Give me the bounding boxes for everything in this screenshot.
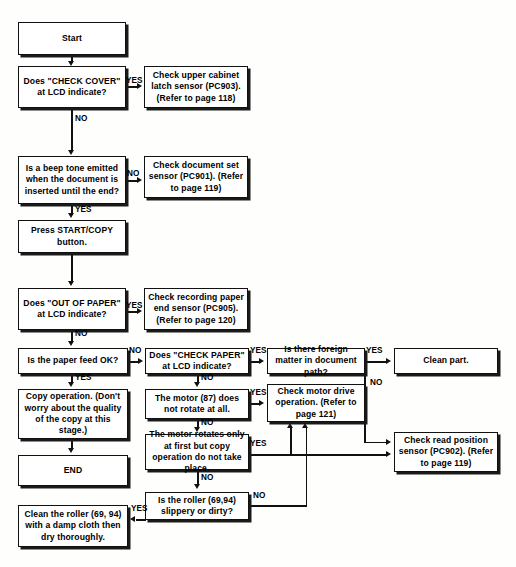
node-beep-tone-label: Is a beep tone emitted when the document… (22, 163, 122, 197)
arrow-branch-to-motor-drive (287, 423, 293, 428)
edge-label-foreign-matter-no: NO (370, 378, 382, 387)
arrow-motor-first-only-yes (386, 451, 391, 457)
node-clean-part[interactable]: Clean part. (394, 348, 498, 374)
arrow-check-paper-yes (259, 358, 264, 364)
arrow-copy-operation-to-end (68, 448, 74, 453)
node-roller-slippery[interactable]: Is the roller (69,94) slippery or dirty? (145, 492, 249, 520)
edge-label-check-cover-yes: YES (126, 76, 143, 85)
edge-label-motor-not-rotate-yes: YES (250, 388, 267, 397)
edge-label-check-paper-no: NO (201, 373, 213, 382)
edge-label-check-paper-yes: YES (250, 346, 267, 355)
node-paper-feed-ok[interactable]: Is the paper feed OK? (18, 348, 128, 374)
node-motor-rotates-first-only[interactable]: The motor rotates only at first but copy… (145, 434, 249, 470)
node-recording-paper-end-sensor[interactable]: Check recording paper end sensor (PC905)… (144, 288, 248, 330)
edge-label-roller-slippery-yes: YES (131, 504, 148, 513)
edge-foreign-matter-yes (365, 361, 387, 363)
node-start-label: Start (22, 33, 122, 44)
edge-label-foreign-matter-yes: YES (366, 346, 383, 355)
node-end[interactable]: END (18, 455, 128, 486)
node-read-position-sensor-label: Check read position sensor (PC902). (Ref… (398, 435, 494, 469)
node-beep-tone[interactable]: Is a beep tone emitted when the document… (18, 156, 126, 204)
arrow-paper-feed-no (138, 358, 143, 364)
arrow-check-paper-no (194, 382, 200, 387)
arrow-motor-first-only-no (194, 484, 200, 489)
node-roller-slippery-label: Is the roller (69,94) slippery or dirty? (149, 495, 245, 518)
node-upper-cabinet-latch-sensor-label: Check upper cabinet latch sensor (PC903)… (148, 70, 244, 104)
edge-motor-first-only-yes (249, 454, 386, 456)
edge-label-paper-feed-yes: YES (75, 373, 92, 382)
arrow-roller-slippery-yes (130, 516, 135, 522)
edge-paper-feed-no (128, 361, 138, 363)
node-clean-part-label: Clean part. (398, 355, 494, 366)
node-upper-cabinet-latch-sensor[interactable]: Check upper cabinet latch sensor (PC903)… (144, 66, 248, 108)
edge-label-beep-tone-yes: YES (75, 205, 92, 214)
edge-roller-slippery-no-horizontal (249, 505, 307, 507)
arrow-foreign-matter-no (386, 439, 391, 445)
node-foreign-matter-label: Is there foreign matter in document path… (271, 344, 361, 378)
arrow-foreign-matter-yes (386, 358, 391, 364)
node-check-motor-drive-label: Check motor drive operation. (Refer to p… (271, 386, 361, 420)
node-document-set-sensor[interactable]: Check document set sensor (PC901). (Refe… (144, 156, 248, 198)
node-check-paper[interactable]: Does "CHECK PAPER" at LCD indicate? (145, 348, 249, 374)
edge-press-start-to-out-of-paper (71, 253, 73, 281)
arrow-motor-not-rotate-yes (259, 400, 264, 406)
node-out-of-paper[interactable]: Does "OUT OF PAPER" at LCD indicate? (18, 288, 126, 330)
node-recording-paper-end-sensor-label: Check recording paper end sensor (PC905)… (148, 292, 244, 326)
edge-label-out-of-paper-no: NO (75, 329, 87, 338)
node-out-of-paper-label: Does "OUT OF PAPER" at LCD indicate? (22, 298, 122, 321)
node-check-cover[interactable]: Does "CHECK COVER" at LCD indicate? (18, 66, 126, 108)
node-press-start-copy-label: Press START/COPY button. (22, 225, 122, 248)
node-copy-operation[interactable]: Copy operation. (Don't worry about the q… (18, 389, 128, 439)
edge-label-out-of-paper-yes: YES (126, 301, 143, 310)
arrow-roller-slippery-no (302, 423, 308, 428)
node-start[interactable]: Start (18, 22, 126, 55)
flowchart-canvas: Start Does "CHECK COVER" at LCD indicate… (0, 0, 516, 567)
arrow-press-start-to-out-of-paper (68, 281, 74, 286)
edge-check-cover-no (71, 108, 73, 151)
arrow-check-cover-no (68, 150, 74, 155)
node-copy-operation-label: Copy operation. (Don't worry about the q… (22, 391, 124, 436)
node-check-paper-label: Does "CHECK PAPER" at LCD indicate? (149, 350, 245, 373)
node-check-motor-drive[interactable]: Check motor drive operation. (Refer to p… (267, 384, 365, 422)
node-check-cover-label: Does "CHECK COVER" at LCD indicate? (22, 76, 122, 99)
edge-copy-operation-to-end (71, 439, 73, 448)
node-clean-roller-label: Clean the roller (69, 94) with a damp cl… (22, 509, 124, 543)
edge-branch-to-motor-drive-vertical (290, 428, 292, 455)
edge-foreign-matter-no-horizontal (364, 442, 386, 444)
node-end-label: END (22, 465, 124, 476)
node-paper-feed-ok-label: Is the paper feed OK? (22, 355, 124, 366)
edge-label-beep-tone-no: NO (127, 169, 139, 178)
arrow-paper-feed-yes (68, 382, 74, 387)
node-motor-not-rotate-label: The motor (87) does not rotate at all. (149, 393, 245, 416)
node-motor-not-rotate[interactable]: The motor (87) does not rotate at all. (145, 389, 249, 419)
arrow-out-of-paper-no (68, 341, 74, 346)
edge-label-motor-first-only-yes: YES (250, 439, 267, 448)
edge-label-motor-not-rotate-no: NO (201, 418, 213, 427)
node-motor-rotates-first-only-label: The motor rotates only at first but copy… (149, 429, 245, 474)
edge-label-paper-feed-no: NO (129, 346, 141, 355)
edge-label-check-cover-no: NO (75, 114, 87, 123)
node-foreign-matter[interactable]: Is there foreign matter in document path… (267, 348, 365, 374)
node-clean-roller[interactable]: Clean the roller (69, 94) with a damp cl… (18, 505, 128, 547)
node-press-start-copy[interactable]: Press START/COPY button. (18, 220, 126, 253)
node-document-set-sensor-label: Check document set sensor (PC901). (Refe… (148, 160, 244, 194)
arrow-beep-tone-yes (68, 213, 74, 218)
node-read-position-sensor[interactable]: Check read position sensor (PC902). (Ref… (394, 432, 498, 472)
edge-label-motor-first-only-no: NO (201, 473, 213, 482)
edge-roller-slippery-no-vertical (306, 428, 308, 506)
edge-label-roller-slippery-no: NO (253, 491, 265, 500)
